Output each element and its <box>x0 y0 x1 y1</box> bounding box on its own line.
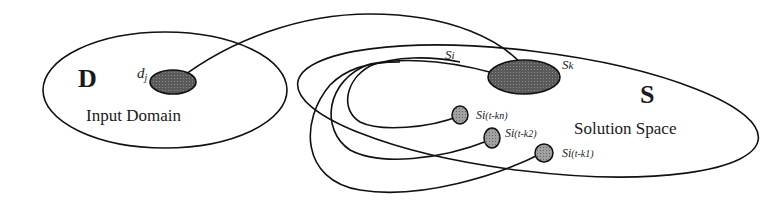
solution-space-symbol: S <box>640 80 654 109</box>
si-t-kn-element <box>452 106 468 124</box>
solution-space-label: Solution Space <box>574 119 676 138</box>
solution-space-ellipse <box>290 23 765 199</box>
si-t-k2-label: Si(t-k2) <box>505 126 537 140</box>
sk-element <box>488 60 560 94</box>
si-t-kn-label: Si(t-kn) <box>476 108 508 122</box>
si-t-k1-label: Si(t-k1) <box>562 146 594 160</box>
diagram-svg: D dj Input Domain S Solution Space Si Sk… <box>0 0 767 206</box>
trajectory-loop-kn <box>348 58 460 128</box>
si-t-k1-element <box>535 144 553 162</box>
sk-label: Sk <box>562 57 575 72</box>
dj-label: dj <box>137 65 148 83</box>
input-domain-symbol: D <box>78 64 97 93</box>
input-domain-label: Input Domain <box>86 106 181 125</box>
diagram-canvas: D dj Input Domain S Solution Space Si Sk… <box>0 0 767 206</box>
si-t-k2-element <box>484 128 500 148</box>
dj-element <box>150 70 196 94</box>
si-label: Si <box>445 47 455 62</box>
